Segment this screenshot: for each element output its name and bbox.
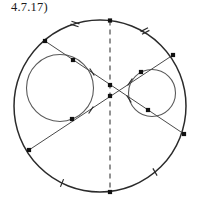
chord-lower-left-to-upper-right	[29, 55, 173, 150]
chord-upper-left-to-lower-right	[45, 41, 184, 134]
dot-bottom-of-circle	[108, 190, 112, 194]
dot-axis-intersection-upper	[108, 83, 112, 87]
dot-chord-b-start	[27, 148, 31, 152]
geometry-figure: 4.7.17)	[0, 0, 198, 207]
dot-chord-b-end	[171, 53, 175, 57]
dot-tangent-left-upper	[71, 58, 75, 62]
dot-chord-a-end	[182, 132, 186, 136]
tick-marks-layer	[60, 21, 157, 187]
tick-arc-lower-right	[153, 168, 157, 175]
dot-tangent-left-lower	[70, 117, 74, 121]
right-inscribed-circle	[129, 70, 176, 117]
outer-circle	[14, 20, 186, 192]
dot-chord-a-start	[43, 39, 47, 43]
geometry-canvas	[0, 0, 198, 207]
tick-arc-upper-right	[141, 28, 150, 35]
outer-circle-layer	[14, 20, 186, 192]
dot-top-of-circle	[108, 18, 112, 22]
chords-layer	[29, 41, 184, 150]
dot-tangent-right-lower	[146, 108, 150, 112]
dot-tangent-right-upper	[139, 70, 143, 74]
dot-axis-intersection-lower	[108, 94, 112, 98]
inscribed-circles-layer	[27, 55, 176, 122]
left-inscribed-circle	[27, 55, 94, 122]
tick-arc-lower-right-stroke	[153, 168, 157, 175]
